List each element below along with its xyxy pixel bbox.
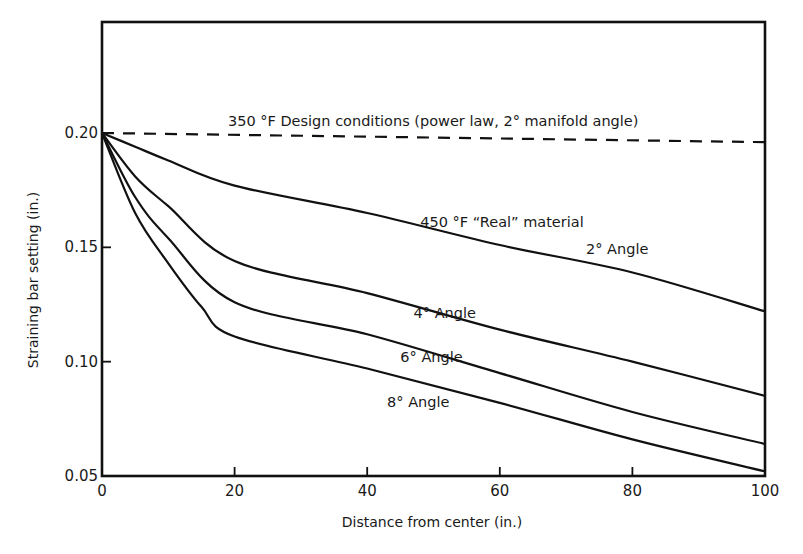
x-tick-label: 40: [358, 482, 377, 500]
y-tick-label: 0.05: [65, 467, 98, 485]
annotation-design-conditions: 350 °F Design conditions (power law, 2° …: [228, 113, 638, 129]
annotation-6deg: 6° Angle: [400, 349, 462, 365]
x-tick-label: 60: [490, 482, 509, 500]
series-lines: [102, 133, 765, 471]
y-tick-label: 0.10: [65, 353, 98, 371]
x-axis-title: Distance from center (in.): [342, 514, 522, 530]
x-tick-label: 80: [623, 482, 642, 500]
y-axis-title: Straining bar setting (in.): [25, 192, 41, 368]
y-tick-label: 0.20: [65, 124, 98, 142]
x-tick-label: 100: [751, 482, 780, 500]
chart: 0204060801000.050.100.150.20 350 °F Desi…: [0, 0, 803, 554]
annotation-real-material: 450 °F “Real” material: [420, 214, 583, 230]
design-350f-dashed-line: [102, 133, 765, 142]
x-tick-label: 0: [97, 482, 107, 500]
annotation-2deg: 2° Angle: [586, 241, 648, 257]
y-tick-label: 0.15: [65, 238, 98, 256]
axis-ticks: [102, 133, 632, 476]
x-tick-label: 20: [225, 482, 244, 500]
annotation-8deg: 8° Angle: [387, 394, 449, 410]
annotation-4deg: 4° Angle: [414, 305, 476, 321]
